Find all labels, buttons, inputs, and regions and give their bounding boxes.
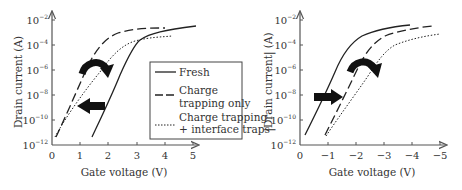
svg-text:5: 5 — [190, 150, 196, 161]
right-shift-arrow — [314, 89, 343, 105]
chart-canvas: 10−12 10−10 10−8 10−6 10−4 10−2 0 1 2 3 … — [0, 0, 462, 190]
svg-text:2: 2 — [105, 150, 111, 161]
left-shift-arrow — [77, 98, 105, 114]
left-y-axis-label: Drain current (A) — [12, 36, 24, 128]
svg-text:10−6: 10−6 — [26, 63, 48, 76]
left-x-axis-label: Gate voltage (V) — [81, 166, 168, 178]
svg-text:10−10: 10−10 — [23, 113, 49, 126]
svg-text:1: 1 — [77, 150, 83, 161]
right-x-tick-labels: 0 −1 −2 −3 −4 −5 — [297, 150, 448, 161]
svg-text:3: 3 — [134, 150, 140, 161]
svg-text:0: 0 — [49, 150, 55, 161]
svg-text:10−4: 10−4 — [26, 38, 48, 51]
svg-text:−3: −3 — [377, 150, 392, 161]
svg-text:0: 0 — [297, 150, 303, 161]
left-y-tick-labels: 10−12 10−10 10−8 10−6 10−4 10−2 — [23, 13, 49, 151]
right-y-axis-label: |Drain current| (A) — [262, 32, 276, 131]
svg-text:−5: −5 — [433, 150, 448, 161]
svg-text:10−2: 10−2 — [26, 13, 48, 26]
svg-text:10−10: 10−10 — [271, 113, 297, 126]
legend: Fresh Charge trapping only Charge trappi… — [150, 62, 270, 139]
right-plot: 10−12 10−10 10−8 10−6 10−4 10−2 0 −1 −2 … — [262, 12, 447, 178]
legend-charge-line2: trapping only — [179, 97, 251, 109]
svg-text:−2: −2 — [349, 150, 364, 161]
svg-text:10−12: 10−12 — [23, 138, 49, 151]
legend-fresh: Fresh — [179, 66, 210, 78]
right-curve-fresh — [305, 25, 410, 135]
legend-charge-line1: Charge — [179, 84, 218, 96]
left-curve-charge-trapping — [56, 28, 165, 137]
right-curve-charge-trapping — [325, 26, 432, 135]
svg-text:−1: −1 — [321, 150, 336, 161]
right-x-axis-label: Gate voltage (V) — [329, 166, 416, 178]
svg-text:10−8: 10−8 — [26, 88, 48, 101]
left-curved-arrow — [82, 63, 114, 78]
svg-text:10−12: 10−12 — [271, 138, 297, 151]
svg-text:4: 4 — [162, 150, 168, 161]
left-x-tick-labels: 0 1 2 3 4 5 — [49, 150, 196, 161]
legend-interface-line2: + interface traps — [179, 123, 270, 135]
right-curve-interface-traps — [326, 34, 440, 136]
svg-text:10−6: 10−6 — [274, 63, 296, 76]
figure: 10−12 10−10 10−8 10−6 10−4 10−2 0 1 2 3 … — [0, 0, 462, 190]
svg-text:10−4: 10−4 — [274, 38, 296, 51]
svg-text:10−8: 10−8 — [274, 88, 296, 101]
svg-text:10−2: 10−2 — [274, 13, 296, 26]
right-y-tick-labels: 10−12 10−10 10−8 10−6 10−4 10−2 — [271, 13, 297, 151]
legend-interface-line1: Charge trapping — [179, 111, 267, 123]
svg-text:−4: −4 — [405, 150, 420, 161]
